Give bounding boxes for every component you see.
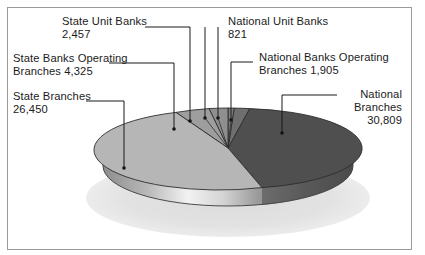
callout-label-state-branches: State Branches 26,450 — [13, 90, 91, 116]
callout-label-national-banks-operating-branches-line2: Branches 1,905 — [259, 64, 389, 77]
callout-label-national-unit-banks: National Unit Banks 821 — [228, 15, 328, 41]
callout-label-national-unit-banks-line1: National Unit Banks — [228, 15, 328, 28]
callout-label-state-unit-banks-line2: 2,457 — [62, 28, 147, 41]
callout-label-state-banks-operating-branches: State Banks Operating Branches 4,325 — [13, 52, 128, 78]
leader-dot-state-unit-banks — [188, 119, 192, 123]
callout-label-state-unit-banks: State Unit Banks 2,457 — [62, 15, 147, 41]
callout-label-national-branches-line3: 30,809 — [302, 114, 402, 127]
callout-label-national-unit-banks-line2: 821 — [228, 28, 328, 41]
callout-label-state-banks-operating-branches-line2: Branches 4,325 — [13, 65, 128, 78]
callout-label-national-branches: National Branches 30,809 — [302, 88, 402, 128]
leader-line-state-unit-banks — [145, 27, 190, 121]
callout-label-state-banks-operating-branches-line1: State Banks Operating — [13, 52, 128, 65]
leader-dot-national-branches — [280, 131, 284, 135]
leader-dot-state-branches — [122, 166, 126, 170]
callout-label-national-banks-operating-branches: National Banks Operating Branches 1,905 — [259, 51, 389, 77]
callout-label-national-branches-line1: National — [302, 88, 402, 101]
pie-chart-figure: State Unit Banks 2,457 State Banks Opera… — [0, 0, 425, 255]
callout-label-state-branches-line1: State Branches — [13, 90, 91, 103]
callout-label-national-branches-line2: Branches — [302, 101, 402, 114]
callout-label-national-banks-operating-branches-line1: National Banks Operating — [259, 51, 389, 64]
callout-label-state-branches-line2: 26,450 — [13, 103, 91, 116]
callout-label-state-unit-banks-line1: State Unit Banks — [62, 15, 147, 28]
leader-dot-state-banks-operating-branches — [172, 127, 176, 131]
